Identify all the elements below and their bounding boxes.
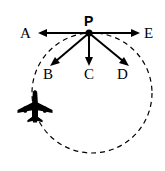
label-direction-e: E: [144, 26, 153, 41]
vector-arrow-d: [89, 33, 129, 66]
label-direction-b: B: [43, 67, 53, 82]
vector-arrow-b: [50, 33, 89, 66]
vector-diagram: P A B C D E: [0, 0, 165, 171]
vector-arrow-c: [85, 33, 93, 66]
airplane-icon: [18, 90, 53, 122]
vector-arrow-e: [89, 29, 140, 37]
label-direction-a: A: [20, 26, 31, 41]
label-point-p: P: [84, 14, 93, 28]
label-direction-c: C: [84, 67, 94, 82]
label-direction-d: D: [117, 67, 128, 82]
vector-arrow-a: [38, 29, 89, 37]
circular-path-dashed: [32, 33, 152, 153]
vertex-point-p: [85, 29, 92, 36]
